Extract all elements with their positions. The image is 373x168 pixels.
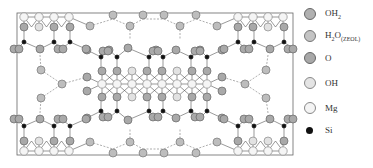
atom-o [188,93,196,101]
atom-o [36,45,44,53]
atom-o [203,93,211,101]
atom-o [154,47,162,55]
atom-o [172,114,180,122]
atom-o [218,73,226,81]
atom-si [282,124,286,128]
atom-si [147,55,151,59]
atom-oh [264,23,272,31]
legend-label: Si [325,125,333,135]
atom-si [236,40,240,44]
atom-mg [128,80,136,88]
legend-swatch-h2o-zeol-icon [304,30,316,42]
atom-o [143,67,151,75]
legend-swatch-oh2-icon [304,8,316,20]
atom-w [139,149,147,157]
atom-si [161,109,165,113]
atom-si [52,124,56,128]
atom-o [172,46,180,54]
atom-o [249,23,257,31]
atom-o [98,67,106,75]
atom-si [189,109,193,113]
atom-o [59,115,67,123]
atom-o [280,23,288,31]
atom-mg [249,13,257,21]
atom-mg [113,80,121,88]
legend-label: H2O(ZEOL) [325,30,360,42]
atom-oh [264,137,272,145]
atom-mg [234,147,242,155]
atom-oh [35,23,43,31]
atom-mg [249,147,257,155]
atom-oh [173,67,181,75]
atom-o [154,113,162,121]
atom-si [22,40,26,44]
legend: OH2H2O(ZEOL)OOHMgSi [300,0,373,168]
atom-o [203,67,211,75]
legend-item-h2o-zeol: H2O(ZEOL) [304,30,360,42]
atom-o [218,87,226,95]
legend-label: O [325,53,332,63]
atom-si [252,40,256,44]
atom-o [36,115,44,123]
atom-mg [65,147,73,155]
atom-si [115,109,119,113]
atom-w [109,11,117,19]
atom-mg [98,80,106,88]
atom-o [280,137,288,145]
atom-o [143,93,151,101]
atom-si [68,124,72,128]
atom-o [59,45,67,53]
atom-o [20,137,28,145]
atom-o [20,23,28,31]
atom-o [158,67,166,75]
atom-o [188,67,196,75]
atom-w [213,22,221,30]
atom-o [82,45,90,53]
atom-si [22,124,26,128]
atom-o [83,73,91,81]
atom-mg [173,80,181,88]
atom-o [266,45,274,53]
atom-mg [158,80,166,88]
atom-si [68,40,72,44]
atom-mg [234,13,242,21]
atom-o [289,45,297,53]
atom-oh [173,93,181,101]
atom-o [289,115,297,123]
atom-o [82,115,90,123]
atom-o [245,115,253,123]
atom-si [99,109,103,113]
atom-mg [20,13,28,21]
atom-o [124,44,132,52]
legend-label: Mg [325,103,338,113]
atom-mg [35,147,43,155]
atom-o [83,87,91,95]
legend-swatch-mg-icon [304,102,316,114]
atom-mg [188,80,196,88]
atom-o [113,67,121,75]
atom-w [139,11,147,19]
atom-o [124,116,132,124]
legend-item-oh: OH [304,77,338,89]
atom-w [109,149,117,157]
atom-o [104,47,112,55]
legend-swatch-o-icon [304,52,316,64]
atom-w [58,80,66,88]
atom-si [99,55,103,59]
atom-si [52,40,56,44]
atom-si [205,55,209,59]
atom-o [50,137,58,145]
atom-si [161,55,165,59]
legend-item-si: Si [304,125,333,135]
atom-w [176,138,184,146]
atom-w [126,138,134,146]
atom-si [252,124,256,128]
atom-w [160,149,168,157]
atom-o [50,23,58,31]
atom-o [113,93,121,101]
atom-w [86,138,94,146]
atom-w [241,80,249,88]
atom-o [66,23,74,31]
atom-si [147,109,151,113]
atom-mg [35,13,43,21]
